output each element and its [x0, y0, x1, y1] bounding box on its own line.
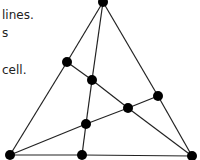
triangle-graph-diagram [0, 0, 200, 160]
graph-edge [86, 108, 128, 124]
graph-edge [103, 2, 158, 96]
graph-edge [82, 155, 192, 156]
graph-node-center-low [81, 119, 91, 129]
graph-edge [86, 80, 92, 124]
graph-node-bottom-mid [77, 150, 87, 160]
graph-edge [158, 96, 192, 156]
graph-nodes [5, 0, 197, 160]
graph-node-center-up [87, 75, 97, 85]
graph-edge [10, 124, 86, 155]
graph-edge [92, 80, 128, 108]
graph-edge [10, 62, 67, 155]
graph-node-left-mid [62, 57, 72, 67]
graph-edge [128, 108, 192, 156]
graph-node-top [98, 0, 108, 7]
graph-node-bottom-left [5, 150, 15, 160]
graph-node-bottom-right [187, 151, 197, 160]
graph-edge [92, 2, 103, 80]
graph-node-right-mid [153, 91, 163, 101]
graph-edges [10, 2, 192, 156]
graph-node-center [123, 103, 133, 113]
graph-edge [67, 2, 103, 62]
